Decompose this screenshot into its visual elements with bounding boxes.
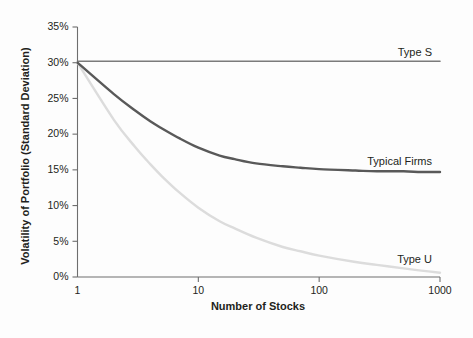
y-axis-tick-label: 25% xyxy=(47,92,68,104)
series-label-type-s: Type S xyxy=(398,46,432,58)
y-axis-tick-label: 10% xyxy=(47,199,68,211)
x-axis-tick-label: 1000 xyxy=(428,284,452,296)
x-axis-tick-label: 10 xyxy=(192,284,204,296)
chart-screenshot: 0%5%10%15%20%25%30%35% 1101001000 Type S… xyxy=(0,0,473,338)
y-axis-tick-label: 0% xyxy=(53,270,68,282)
chart-svg: 0%5%10%15%20%25%30%35% 1101001000 Type S… xyxy=(0,0,473,338)
y-axis-tick-label: 20% xyxy=(47,127,68,139)
y-axis-title: Volatility of Portfolio (Standard Deviat… xyxy=(19,47,31,265)
volatility-vs-number-of-stocks-chart: 0%5%10%15%20%25%30%35% 1101001000 Type S… xyxy=(0,0,473,338)
series-label-type-u: Type U xyxy=(397,253,432,265)
y-axis-tick-label: 5% xyxy=(53,235,68,247)
x-axis-tick-label: 1 xyxy=(75,284,81,296)
x-axis-tick-label: 100 xyxy=(310,284,328,296)
x-axis-title: Number of Stocks xyxy=(211,300,305,312)
series-label-typical-firms: Typical Firms xyxy=(367,155,432,167)
y-axis-tick-label: 15% xyxy=(47,163,68,175)
y-axis-tick-label: 35% xyxy=(47,20,68,32)
y-axis-tick-label: 30% xyxy=(47,56,68,68)
